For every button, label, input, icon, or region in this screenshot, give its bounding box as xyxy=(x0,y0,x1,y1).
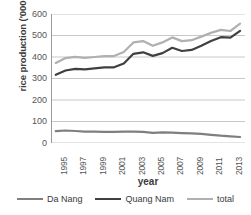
x-tick-label: 2003 xyxy=(137,157,147,175)
legend-label: Quang Nam xyxy=(125,194,174,204)
plot-area xyxy=(51,14,245,143)
x-tick-label: 1997 xyxy=(78,157,88,175)
rice-production-line-chart: rice production ('000 tons) 600500400300… xyxy=(0,0,251,215)
legend-item[interactable]: total xyxy=(187,194,234,204)
x-tick-label: 1999 xyxy=(98,157,108,175)
legend-item[interactable]: Da Nang xyxy=(17,194,83,204)
y-tick-label: 600 xyxy=(25,10,47,19)
y-tick-label: 400 xyxy=(25,53,47,62)
legend-swatch-icon xyxy=(187,198,213,201)
legend-swatch-icon xyxy=(17,198,43,201)
x-tick-label: 2013 xyxy=(234,157,244,175)
legend-swatch-icon xyxy=(95,198,121,201)
x-tick-label: 2009 xyxy=(195,157,205,175)
chart-legend: Da NangQuang Namtotal xyxy=(0,191,251,207)
series-line-da-nang xyxy=(56,131,240,138)
x-axis-title: year xyxy=(51,176,245,187)
x-tick-label: 2005 xyxy=(156,157,166,175)
y-tick-label: 500 xyxy=(25,31,47,40)
y-tick-label: 300 xyxy=(25,74,47,83)
legend-label: Da Nang xyxy=(47,194,83,204)
y-tick-label: 200 xyxy=(25,96,47,105)
legend-item[interactable]: Quang Nam xyxy=(95,194,174,204)
x-axis-tick-labels: 1995199719992001200320052007200920112013 xyxy=(51,149,245,179)
x-tick-label: 1995 xyxy=(59,157,69,175)
legend-label: total xyxy=(217,194,234,204)
series-lines xyxy=(56,24,240,137)
x-tick-label: 2011 xyxy=(214,158,224,175)
x-tick-label: 2001 xyxy=(117,157,127,175)
gridlines xyxy=(51,14,245,143)
x-tick-label: 2007 xyxy=(175,157,185,175)
y-tick-label: 0 xyxy=(25,139,47,148)
plot-svg xyxy=(51,14,245,143)
y-tick-label: 100 xyxy=(25,117,47,126)
y-axis-tick-labels: 6005004003002001000 xyxy=(22,0,47,160)
series-line-quang-nam xyxy=(56,31,240,75)
